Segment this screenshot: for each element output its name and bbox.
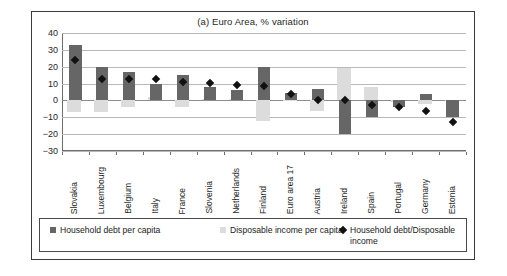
x-label-france: France <box>178 188 187 214</box>
x-label-finland: Finland <box>259 186 268 214</box>
plot-area <box>62 33 466 151</box>
x-label-italy: Italy <box>151 198 160 214</box>
y-axis-tick-labels: 403020100−10−20−30 <box>32 33 60 151</box>
x-label-netherlands: Netherlands <box>232 168 241 214</box>
figure-panel: (a) Euro Area, % variation 403020100−10−… <box>31 11 475 260</box>
x-tick <box>466 152 467 155</box>
bar-disposable-income <box>364 87 378 100</box>
x-tick <box>170 152 171 155</box>
x-tick <box>277 152 278 155</box>
bar-disposable-income <box>256 100 270 120</box>
chart-title: (a) Euro Area, % variation <box>32 16 474 27</box>
bar-household-debt <box>339 100 351 134</box>
x-tick <box>224 152 225 155</box>
y-tick-label: −10 <box>43 113 58 122</box>
bar-disposable-income <box>175 100 189 107</box>
x-tick <box>412 152 413 155</box>
bar-household-debt <box>231 90 243 100</box>
x-label-portugal: Portugal <box>394 182 403 214</box>
x-label-belgium: Belgium <box>124 183 133 214</box>
x-tick <box>358 152 359 155</box>
x-label-austria: Austria <box>313 188 322 214</box>
x-label-spain: Spain <box>367 192 376 214</box>
legend-item-1: Disposable income per capita <box>220 225 343 236</box>
x-label-euro-area-17: Euro area 17 <box>286 165 295 214</box>
x-label-ireland: Ireland <box>340 188 349 214</box>
x-tick <box>304 152 305 155</box>
y-tick-label: −20 <box>43 130 58 139</box>
bar-disposable-income <box>94 100 108 112</box>
x-tick <box>62 152 63 155</box>
x-label-slovenia: Slovenia <box>205 181 214 214</box>
bar-disposable-income <box>418 100 432 103</box>
x-tick <box>197 152 198 155</box>
x-tick <box>439 152 440 155</box>
legend-item-2: Household debt/Disposable income <box>340 225 466 247</box>
y-tick-label: 20 <box>48 62 58 71</box>
x-label-estonia: Estonia <box>448 186 457 214</box>
legend-item-0: Household debt per capita <box>50 225 160 236</box>
x-label-luxembourg: Luxembourg <box>97 167 106 214</box>
legend-label: Disposable income per capita <box>230 225 343 236</box>
legend-label: Household debt per capita <box>60 225 160 236</box>
bar-household-debt <box>446 100 458 117</box>
x-tick <box>116 152 117 155</box>
bar-household-debt <box>204 87 216 100</box>
square-light-icon <box>220 227 226 233</box>
x-tick <box>143 152 144 155</box>
legend-label: Household debt/Disposable income <box>350 225 466 247</box>
x-tick <box>89 152 90 155</box>
bar-household-debt <box>420 94 432 101</box>
gridline-30 <box>62 50 466 51</box>
x-tick <box>251 152 252 155</box>
bar-disposable-income <box>67 100 81 112</box>
y-tick-label: 40 <box>48 29 58 38</box>
bar-household-debt <box>150 84 162 101</box>
gridline-40 <box>62 33 466 34</box>
gridline--20 <box>62 134 466 135</box>
bar-household-debt <box>69 45 81 101</box>
bar-disposable-income <box>283 100 297 101</box>
y-tick-label: −30 <box>43 147 58 156</box>
y-tick-label: 30 <box>48 45 58 54</box>
x-label-slovakia: Slovakia <box>70 182 79 214</box>
y-tick-label: 10 <box>48 79 58 88</box>
bar-household-debt <box>96 67 108 101</box>
bar-disposable-income <box>121 100 135 107</box>
x-tick <box>331 152 332 155</box>
diamond-icon <box>339 226 347 234</box>
chart-legend: Household debt per capitaDisposable inco… <box>39 218 467 252</box>
x-label-germany: Germany <box>421 179 430 214</box>
square-dark-icon <box>50 227 56 233</box>
y-tick-label: 0 <box>53 96 58 105</box>
x-axis-category-labels: SlovakiaLuxembourgBelgiumItalyFranceSlov… <box>62 152 466 214</box>
x-tick <box>385 152 386 155</box>
